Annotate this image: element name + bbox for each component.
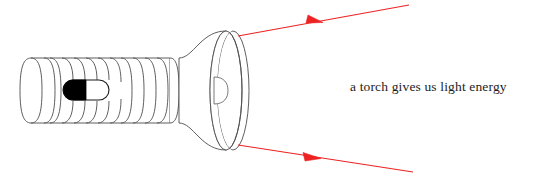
lower-light-ray — [238, 145, 413, 172]
torch-illustration-scene: a torch gives us light energy — [0, 0, 540, 190]
power-switch[interactable] — [63, 80, 109, 100]
torch-head — [179, 31, 249, 150]
caption-text: a torch gives us light energy — [350, 79, 530, 95]
ray-direction-arrow — [306, 15, 323, 23]
switch-knob[interactable] — [64, 80, 87, 100]
upper-light-ray — [238, 5, 409, 36]
ray-direction-arrow — [303, 153, 321, 162]
torch-drawing — [0, 0, 540, 190]
handle-neck-seam — [170, 58, 179, 123]
